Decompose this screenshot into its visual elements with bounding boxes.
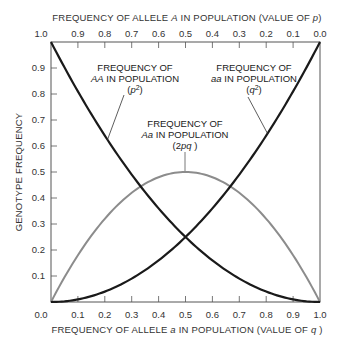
tick-label: 0.0 (34, 309, 47, 320)
svg-text:(p2): (p2) (127, 84, 143, 96)
tick-label: 0.2 (260, 28, 273, 39)
svg-text:FREQUENCY OF: FREQUENCY OF (147, 118, 223, 129)
tick-label: 0.7 (233, 309, 246, 320)
annotation-Aa: FREQUENCY OF Aa IN POPULATION (2pq ) (141, 118, 229, 151)
tick-label: 0.6 (152, 28, 165, 39)
tick-label: 0.9 (286, 309, 299, 320)
tick-label: 0.7 (125, 28, 138, 39)
tick-label: 0.7 (32, 114, 45, 125)
annotation-aa: FREQUENCY OF aa IN POPULATION (q2) (211, 62, 297, 95)
tick-label: 0.6 (32, 140, 45, 151)
tick-label: 0.9 (32, 62, 45, 73)
tick-label: 0.5 (179, 28, 192, 39)
svg-text:Aa IN POPULATION: Aa IN POPULATION (141, 129, 229, 140)
tick-label: 0.5 (179, 309, 192, 320)
annotation-AA: FREQUENCY OF AA IN POPULATION (p2) (90, 62, 179, 95)
svg-text:aa IN POPULATION: aa IN POPULATION (211, 73, 297, 84)
tick-label: 0.8 (32, 88, 45, 99)
svg-text:(2pq ): (2pq ) (173, 140, 198, 151)
tick-label: 0.5 (32, 166, 45, 177)
bottom-axis-title: FREQUENCY OF ALLELE a IN POPULATION (VAL… (51, 324, 322, 335)
tick-label: 0.1 (32, 270, 45, 281)
svg-text:(q2): (q2) (246, 84, 262, 96)
tick-label: 0.3 (233, 28, 246, 39)
tick-label: 0.8 (98, 28, 111, 39)
tick-label: 0.8 (260, 309, 273, 320)
tick-label: 1.0 (34, 28, 47, 39)
tick-label: 0.6 (206, 309, 219, 320)
tick-label: 0.1 (286, 28, 299, 39)
tick-label: 0.2 (32, 244, 45, 255)
tick-label: 0.3 (125, 309, 138, 320)
tick-label: 0.1 (71, 309, 84, 320)
hardy-weinberg-chart: FREQUENCY OF ALLELE A IN POPULATION (VAL… (0, 0, 345, 348)
svg-text:FREQUENCY OF: FREQUENCY OF (216, 62, 292, 73)
tick-label: 0.2 (98, 309, 111, 320)
tick-label: 0.4 (32, 192, 45, 203)
y-axis-title: GENOTYPE FREQUENCY (13, 112, 24, 231)
tick-label: 0.9 (71, 28, 84, 39)
svg-text:FREQUENCY OF: FREQUENCY OF (97, 62, 173, 73)
leader-line-AA (108, 95, 125, 140)
tick-label: 0.0 (313, 28, 326, 39)
tick-label: 0.3 (32, 218, 45, 229)
tick-label: 1.0 (313, 309, 326, 320)
tick-label: 0.4 (206, 28, 219, 39)
top-axis-title: FREQUENCY OF ALLELE A IN POPULATION (VAL… (52, 12, 321, 23)
tick-label: 0.4 (152, 309, 165, 320)
leader-line-aa (248, 97, 268, 134)
svg-text:AA IN POPULATION: AA IN POPULATION (90, 73, 179, 84)
